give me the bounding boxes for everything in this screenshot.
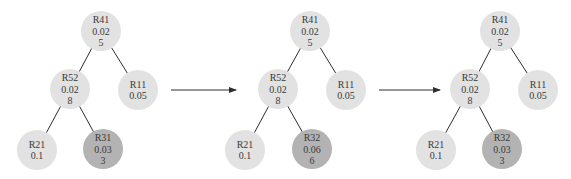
edge-r41-r11 (111, 46, 129, 75)
node-label: R21 (237, 139, 254, 150)
node-value: 0.1 (31, 150, 44, 161)
tree-2: R410.025R520.028R110.05R210.1R320.066 (225, 11, 366, 170)
node-label: R32 (494, 132, 511, 143)
node-r32: R320.033 (482, 129, 522, 169)
node-label: R32 (304, 132, 321, 143)
node-label: R11 (338, 79, 354, 90)
node-r41: R410.025 (81, 11, 121, 51)
node-value: 0.05 (129, 90, 147, 101)
node-value: 0.02 (92, 26, 110, 37)
node-r21: R210.1 (17, 130, 57, 170)
node-r31: R310.033 (83, 129, 123, 169)
edge-r52-r32 (287, 105, 303, 134)
node-label: R52 (62, 72, 79, 83)
node-count: 3 (101, 155, 106, 166)
node-r11: R110.05 (118, 70, 158, 110)
edge-r52-r21 (46, 105, 62, 134)
node-r52: R520.028 (450, 69, 490, 109)
node-value: 0.1 (239, 150, 252, 161)
node-value: 0.03 (493, 144, 511, 155)
node-label: R21 (29, 139, 46, 150)
node-count: 8 (68, 95, 73, 106)
edge-r41-r11 (319, 46, 336, 74)
node-value: 0.03 (94, 144, 112, 155)
node-count: 5 (308, 37, 313, 48)
node-label: R41 (93, 14, 110, 25)
node-label: R11 (130, 79, 146, 90)
edge-r41-r11 (510, 46, 529, 75)
node-value: 0.02 (461, 84, 479, 95)
node-value: 0.06 (303, 144, 321, 155)
node-r32: R320.066 (292, 129, 332, 169)
node-r11: R110.05 (518, 70, 558, 110)
node-label: R21 (428, 139, 445, 150)
node-count: 6 (310, 155, 315, 166)
node-value: 0.02 (301, 26, 319, 37)
edge-r52-r31 (79, 105, 95, 133)
node-label: R52 (462, 72, 479, 83)
edge-r52-r21 (254, 105, 270, 134)
node-r41: R410.025 (290, 11, 330, 51)
edge-r41-r52 (478, 47, 491, 73)
node-value: 0.05 (529, 90, 547, 101)
tree-transformation-diagram: R410.025R520.028R110.05R210.1R310.033R41… (0, 0, 571, 179)
node-count: 8 (276, 95, 281, 106)
edge-r52-r21 (445, 105, 461, 135)
node-count: 5 (99, 37, 104, 48)
node-label: R31 (95, 132, 112, 143)
node-r52: R520.028 (258, 69, 298, 109)
node-r11: R110.05 (326, 70, 366, 110)
node-count: 5 (498, 37, 503, 48)
node-label: R52 (270, 72, 287, 83)
node-value: 0.1 (430, 150, 443, 161)
node-r41: R410.025 (480, 11, 520, 51)
trees-layer: R410.025R520.028R110.05R210.1R310.033R41… (17, 11, 558, 170)
edge-r41-r52 (79, 47, 93, 73)
node-count: 8 (468, 95, 473, 106)
node-value: 0.02 (269, 84, 287, 95)
node-count: 3 (500, 155, 505, 166)
tree-1: R410.025R520.028R110.05R210.1R310.033 (17, 11, 158, 170)
edge-r52-r32 (479, 105, 494, 133)
node-value: 0.02 (491, 26, 509, 37)
node-label: R11 (530, 79, 546, 90)
node-label: R41 (302, 14, 319, 25)
node-r52: R520.028 (50, 69, 90, 109)
edge-r41-r52 (287, 47, 302, 73)
node-r21: R210.1 (416, 130, 456, 170)
node-value: 0.02 (61, 84, 79, 95)
node-r21: R210.1 (225, 130, 265, 170)
node-label: R41 (492, 14, 509, 25)
node-value: 0.05 (337, 90, 355, 101)
